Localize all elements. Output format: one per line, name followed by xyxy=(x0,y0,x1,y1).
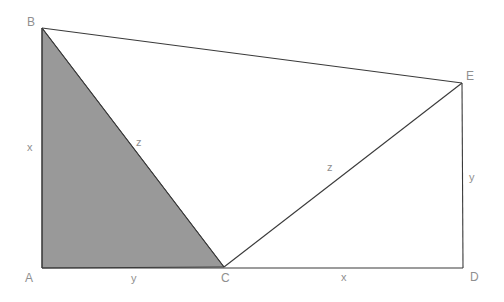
vertex-label-a: A xyxy=(25,272,33,284)
side-label-ac: y xyxy=(131,273,137,284)
vertex-label-d: D xyxy=(470,271,479,283)
side-label-cd: x xyxy=(341,272,347,283)
side-label-ed: y xyxy=(469,172,475,183)
segment-ed xyxy=(462,83,463,268)
vertex-label-b: B xyxy=(27,16,35,28)
segment-be xyxy=(42,28,462,83)
diagram-canvas xyxy=(0,0,504,302)
vertex-label-e: E xyxy=(466,70,474,82)
segment-ce xyxy=(224,83,462,267)
side-label-bc: z xyxy=(136,137,142,148)
side-label-ab: x xyxy=(27,142,33,153)
side-label-ce: z xyxy=(327,162,333,173)
vertex-label-c: C xyxy=(221,272,230,284)
geometry-diagram: A B C D E x y z z x y xyxy=(0,0,504,302)
